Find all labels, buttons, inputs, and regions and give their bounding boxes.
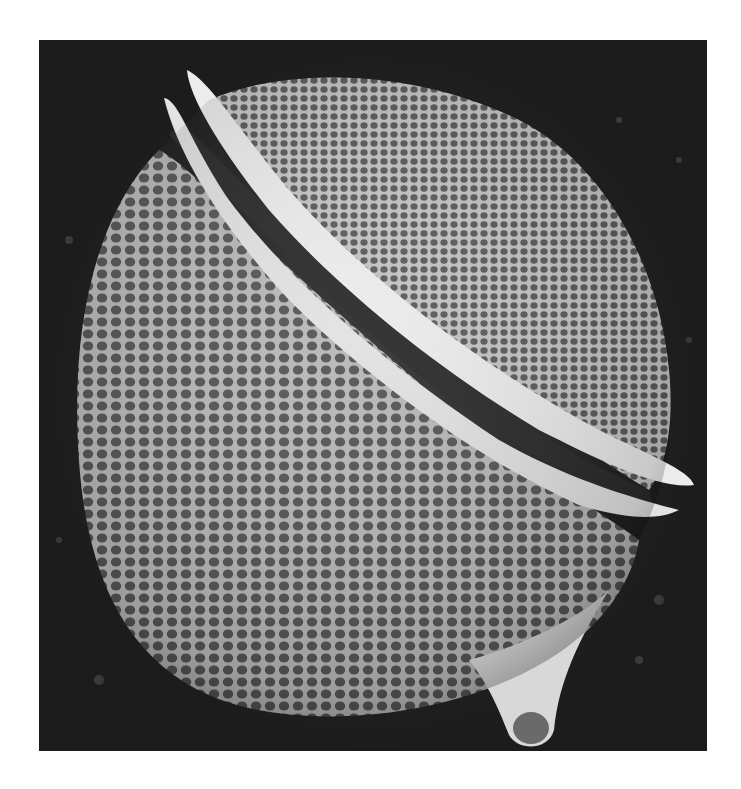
dinoflagellate-micrograph — [39, 40, 707, 751]
spine-tip — [513, 712, 549, 744]
micrograph-frame — [39, 40, 707, 751]
body-shading — [77, 77, 671, 716]
